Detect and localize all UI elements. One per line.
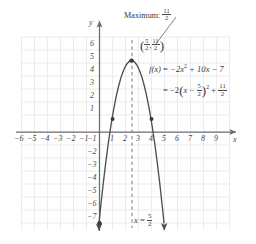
x-tick-7: 7 [188,135,192,143]
vertex-close-paren: ) [160,38,164,53]
vertex-y-fraction: 112 [152,38,160,52]
x-tick-4: 4 [149,135,153,143]
point-y-intercept [97,221,101,225]
x-tick-6: 6 [175,135,179,143]
y-tick-4: 4 [90,66,94,74]
equation-equals-2: = [163,85,168,95]
y-tick--7: −7 [87,213,96,221]
equation-minus: − [190,85,195,95]
point-vertex [129,58,133,62]
equation-equals-1: = [163,64,168,74]
equation-variable: x [184,85,188,95]
maximum-callout-text: Maximum: [124,11,160,20]
x-tick--6: −6 [14,135,23,143]
x-tick--5: −5 [27,135,36,143]
equation-plus: + [211,85,216,95]
y-tick-2: 2 [90,92,94,100]
x-tick-2: 2 [123,135,127,143]
y-tick--1: −1 [87,135,96,143]
symmetry-variable: x [134,215,138,225]
x-tick--3: −3 [53,135,62,143]
parabola-graph-figure [0,0,256,244]
y-tick-1: 1 [90,105,94,113]
x-axis-label: x [233,136,237,144]
y-tick-6: 6 [90,40,94,48]
equation-term-rest: + 10x − 7 [189,64,224,74]
x-tick--2: −2 [66,135,75,143]
y-tick-5: 5 [90,53,94,61]
maximum-value-fraction: 11 2 [162,8,170,22]
vertex-y-denominator: 2 [152,45,160,51]
point-right [150,117,154,121]
symmetry-equals: = [140,215,145,225]
symmetry-denominator: 2 [147,221,152,228]
equation-exponent-1: 2 [184,63,187,69]
y-tick-3: 3 [90,79,94,87]
equation-exponent-2: 2 [206,84,209,90]
x-tick--4: −4 [40,135,49,143]
x-tick-8: 8 [201,135,205,143]
x-tick-5: 5 [162,135,166,143]
equation-line-1: f(x) = −2x2 + 10x − 7 [149,65,224,74]
vertex-coordinate-label: (52,112) [140,38,164,52]
axis-of-symmetry-label: x = 52 [134,213,152,227]
y-tick--2: −2 [87,148,96,156]
y-axis-label: y [89,19,93,27]
y-tick--5: −5 [87,187,96,195]
equation-line-2: = −2(x − 52)2 + 112 [163,83,227,97]
x-tick-3: 3 [136,135,140,143]
equation-constant-denominator: 2 [218,91,226,98]
equation-lhs: f(x) [149,64,161,74]
x-tick-9: 9 [214,135,218,143]
symmetry-fraction: 52 [147,213,152,227]
point-left [111,117,115,121]
maximum-callout: Maximum: 11 2 [124,8,171,22]
x-tick-1: 1 [110,135,114,143]
y-tick--3: −3 [87,161,96,169]
y-tick--4: −4 [87,174,96,182]
equation-leading-coefficient: −2 [170,85,179,95]
y-tick--6: −6 [87,200,96,208]
equation-constant-fraction: 112 [218,83,226,97]
maximum-value-denominator: 2 [162,15,170,21]
equation-term-quadratic: −2x [170,64,184,74]
